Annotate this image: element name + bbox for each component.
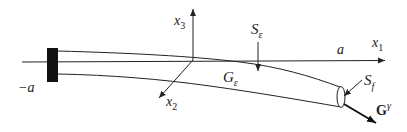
tube-lower-edge: [58, 74, 341, 107]
end-face-pointer: [344, 80, 362, 96]
label-minus-a: −a: [18, 80, 34, 95]
clamp-block: [47, 48, 58, 82]
label-x3: x3: [173, 13, 185, 31]
force-arrow: [344, 104, 376, 123]
label-a: a: [337, 42, 344, 57]
label-force-g-gamma: Gγ: [376, 100, 392, 118]
x1-axis-line: [22, 61, 385, 63]
label-domain-g-eps: Gε: [223, 69, 238, 88]
label-end-face: Sf: [364, 72, 376, 92]
label-x2: x2: [165, 94, 177, 112]
beam-diagram: −a x3 x2 x1 a Sε Gε Sf Gγ: [0, 0, 407, 132]
x2-axis-line: [159, 60, 193, 98]
tube-upper-edge: [58, 51, 340, 87]
label-x1: x1: [371, 35, 383, 53]
label-surface-eps: Sε: [251, 21, 263, 40]
